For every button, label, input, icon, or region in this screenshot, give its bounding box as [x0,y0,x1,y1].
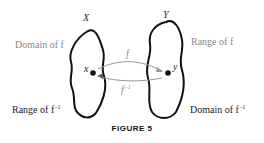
label-domain-finv: Domain of f−1 [190,104,245,115]
arrow-f-head [156,67,163,72]
figure-caption: FIGURE 5 [0,124,264,133]
arrow-f [98,62,162,71]
arrow-finv [100,77,162,81]
set-y-blob [147,21,184,118]
mapping-diagram [0,0,264,143]
point-y-label: y [173,62,177,72]
point-x-label: x [84,64,88,74]
arrow-f-label: f [126,49,129,59]
set-y-title: Y [163,10,169,20]
arrow-finv-head [97,73,103,79]
point-x [90,70,96,76]
label-range-f: Range of f [191,37,233,47]
label-range-finv: Range of f−1 [12,104,61,115]
point-y [165,70,171,76]
set-x-title: X [83,13,89,23]
label-domain-f: Domain of f [15,40,64,50]
arrow-finv-label: f−1 [121,84,131,95]
